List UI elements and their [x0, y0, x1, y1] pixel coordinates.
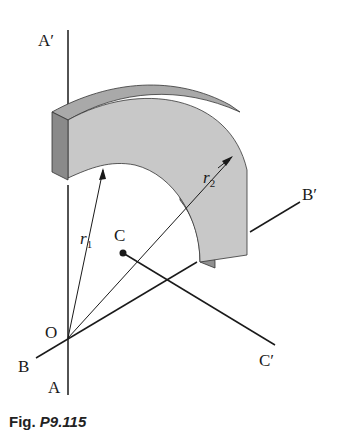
axis-bb: [36, 262, 197, 358]
axis-bb-far: [250, 202, 300, 232]
caption-prefix: Fig.: [9, 413, 36, 430]
centroid-point: [120, 250, 127, 257]
label-b-prime: B′: [302, 185, 317, 204]
label-a-prime: A′: [38, 31, 54, 50]
r1-line: [68, 170, 103, 338]
figure-caption: Fig. P9.115: [9, 413, 86, 430]
label-b: B: [18, 357, 29, 376]
r1-arrowhead: [99, 168, 106, 180]
label-c: C: [114, 226, 125, 245]
axis-cc: [123, 253, 275, 345]
label-c-prime: C′: [259, 351, 274, 370]
front-face: [68, 98, 247, 262]
label-a: A: [48, 378, 61, 397]
label-o: O: [45, 323, 57, 342]
caption-number: P9.115: [40, 413, 86, 430]
end-face: [52, 112, 68, 180]
figure-diagram: A′ A B′ B C C′ O r1 r2: [0, 0, 350, 436]
